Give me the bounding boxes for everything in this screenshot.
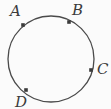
point-label-c: C [97,62,108,77]
point-marker-a [21,23,25,27]
point-marker-b [67,20,71,24]
point-marker-d [24,88,28,92]
circle-outline [8,16,94,102]
point-label-d: D [15,95,27,109]
point-label-b: B [72,3,83,18]
point-label-a: A [10,4,21,19]
point-markers [21,20,93,92]
point-marker-c [89,68,93,72]
circle-diagram: A B C D [0,0,111,109]
